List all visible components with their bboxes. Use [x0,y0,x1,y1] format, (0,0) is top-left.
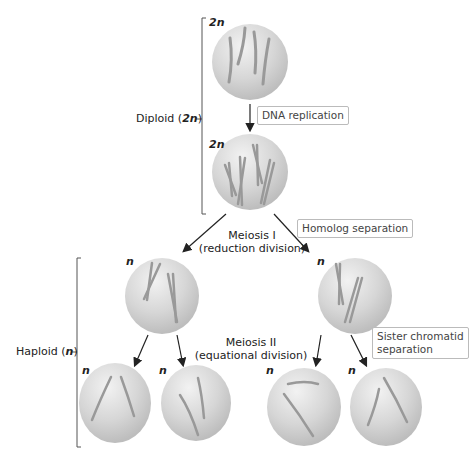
cell-8-haploid [350,368,422,446]
ploidy-label-cell-4: n [317,255,325,268]
sister-chromatid-separation-box: Sister chromatid separation [372,327,469,359]
cell-3-haploid [125,258,199,334]
meiosis-2-label: Meiosis II (equational division) [186,336,316,362]
cell-4-haploid [318,258,392,334]
diploid-bracket [202,18,206,214]
ploidy-label-cell-6: n [159,364,167,377]
ploidy-label-cell-3: n [126,255,134,268]
homolog-separation-box: Homolog separation [297,219,413,238]
ploidy-label-cell-7: n [266,364,274,377]
ploidy-label-cell-2: 2n [209,138,225,151]
diploid-label: Diploid (2n) [136,112,202,125]
cell-7-haploid [267,368,341,446]
dna-replication-box: DNA replication [257,106,349,125]
ploidy-label-cell-5: n [82,364,90,377]
ploidy-label-cell-8: n [348,364,356,377]
ploidy-label-cell-1: 2n [209,16,225,29]
haploid-label: Haploid (n) [16,345,78,358]
meiosis-1-label: Meiosis I (reduction division) [192,229,312,255]
cell-1-diploid [212,24,288,100]
cell-6-haploid [161,365,231,441]
